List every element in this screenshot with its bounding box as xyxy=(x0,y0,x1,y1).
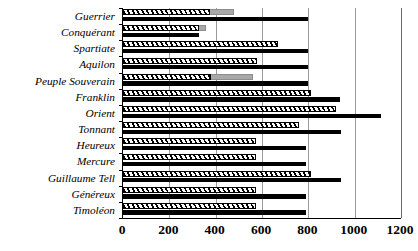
bar-series-hatched xyxy=(123,106,336,112)
y-axis-category-label: Heureux xyxy=(77,137,115,153)
y-axis-category-label: Tonnant xyxy=(78,121,115,137)
bar-series-black xyxy=(123,17,308,21)
y-axis-category-label: Spartiate xyxy=(74,40,115,56)
bar-group xyxy=(123,153,401,169)
plot-area xyxy=(122,8,401,219)
chart-plot-wrapper: GuerrierConquérantSpartiateAquilonPeuple… xyxy=(0,0,418,251)
bar-group xyxy=(123,186,401,202)
x-axis-tick-labels: 020040060080010001200 xyxy=(0,222,418,242)
bar-series-black xyxy=(123,65,308,69)
y-axis-category-labels: GuerrierConquérantSpartiateAquilonPeuple… xyxy=(0,8,119,218)
bar-series-black xyxy=(123,49,308,53)
y-axis-category-label: Aquilon xyxy=(79,56,115,72)
bar-group xyxy=(123,137,401,153)
bar-series-hatched xyxy=(123,58,257,64)
bar-series-hatched xyxy=(123,90,311,96)
bar-series-hatched xyxy=(123,154,256,160)
bar-group xyxy=(123,56,401,72)
bar-series-hatched xyxy=(123,122,299,128)
x-axis-tick-label: 600 xyxy=(251,222,271,238)
bar-series-black xyxy=(123,97,340,101)
bar-series-black xyxy=(123,130,341,134)
y-axis-category-label: Mercure xyxy=(77,153,115,169)
y-axis-category-label: Conquérant xyxy=(61,24,115,40)
bar-group xyxy=(123,121,401,137)
y-axis-category-label: Orient xyxy=(86,105,116,121)
bar-series-black xyxy=(123,146,306,150)
bar-series-black xyxy=(123,210,306,214)
bar-series-black xyxy=(123,81,308,85)
y-axis-tick-mark xyxy=(119,218,123,219)
bar-series-black xyxy=(123,194,306,198)
bar-series-hatched xyxy=(123,138,256,144)
bar-series-black xyxy=(123,178,341,182)
bar-series-black xyxy=(123,33,199,37)
y-axis-category-label: Timoléon xyxy=(73,202,115,218)
bar-group xyxy=(123,202,401,218)
y-axis-category-label: Guerrier xyxy=(75,8,115,24)
x-axis-tick-label: 200 xyxy=(158,222,178,238)
bar-series-hatched xyxy=(123,74,211,80)
bar-group xyxy=(123,40,401,56)
x-axis-tick-label: 800 xyxy=(297,222,317,238)
y-axis-category-label: Généreux xyxy=(72,186,116,202)
bar-series-hatched xyxy=(123,203,256,209)
bar-series-black xyxy=(123,162,306,166)
bar-group xyxy=(123,170,401,186)
y-axis-category-label: Guillaume Tell xyxy=(48,170,115,186)
bar-series-hatched xyxy=(123,171,311,177)
gridline xyxy=(401,8,402,218)
bar-series-black xyxy=(123,114,381,118)
bar-group xyxy=(123,105,401,121)
x-axis-tick-label: 0 xyxy=(119,222,126,238)
bar-group xyxy=(123,73,401,89)
y-axis-category-label: Franklin xyxy=(75,89,115,105)
x-axis-tick-label: 1200 xyxy=(387,222,414,238)
bar-group xyxy=(123,89,401,105)
bar-group xyxy=(123,24,401,40)
y-axis-category-label: Peuple Souverain xyxy=(35,73,115,89)
bar-series-hatched xyxy=(123,187,256,193)
bar-series-hatched xyxy=(123,25,199,31)
bar-series-hatched xyxy=(123,9,210,15)
bar-chart: GuerrierConquérantSpartiateAquilonPeuple… xyxy=(0,0,418,251)
x-axis-tick-label: 1000 xyxy=(340,222,367,238)
bar-series-hatched xyxy=(123,41,278,47)
x-axis-tick-label: 400 xyxy=(205,222,225,238)
bar-group xyxy=(123,8,401,24)
